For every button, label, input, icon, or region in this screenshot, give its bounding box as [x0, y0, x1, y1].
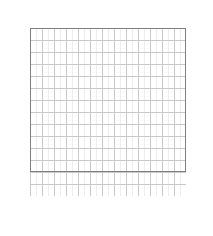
lattice-figure — [0, 0, 213, 236]
grid-body — [30, 28, 186, 196]
gridlines — [30, 28, 186, 196]
